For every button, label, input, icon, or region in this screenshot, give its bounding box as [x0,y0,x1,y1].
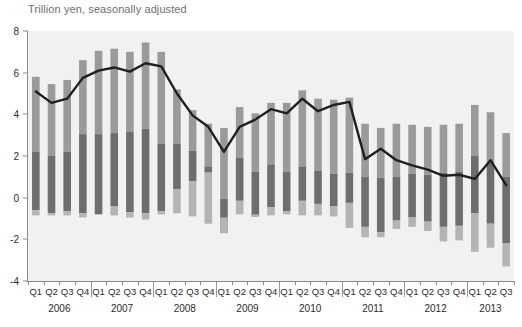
year-separator [216,284,217,297]
bar-segment-middle [63,152,71,211]
bar-segment-lower [157,211,165,214]
bar-segment-middle [32,152,40,210]
bar-segment-lower [204,173,212,224]
bar-segment-lower [79,213,87,217]
bar-segment-middle [126,132,134,212]
bar-segment-lower [455,226,463,241]
bar-segment-upper [220,128,228,199]
bar-segment-lower [377,232,385,237]
quarter-label: Q4 [139,286,152,297]
quarter-label: Q1 [280,286,293,297]
year-label: 2011 [362,303,384,314]
x-tick-mark [295,281,296,285]
x-tick-mark [357,281,358,285]
quarter-label: Q1 [92,286,105,297]
bar-segment-lower [314,204,322,215]
bar-segment-middle [455,172,463,226]
year-label: 2008 [174,303,196,314]
bar-segment-middle [48,156,56,213]
year-label: 2012 [424,303,446,314]
bar-segment-upper [110,49,118,133]
bar-segment-middle [424,175,432,222]
bar-segment-upper [79,60,87,134]
year-label: 2006 [48,303,70,314]
bar-segment-middle [502,177,510,244]
x-tick-mark [310,281,311,285]
x-tick-mark [122,281,123,285]
x-tick-mark [44,281,45,285]
x-tick-mark [326,281,327,285]
bar-segment-upper [126,52,134,132]
quarter-label: Q2 [296,286,309,297]
year-separator [342,284,343,297]
quarter-label: Q2 [484,286,497,297]
year-separator [279,284,280,297]
bar-segment-lower [424,222,432,231]
bar-segment-middle [408,174,416,218]
bar-segment-middle [95,134,103,214]
year-label: 2007 [111,303,133,314]
quarter-label: Q2 [421,286,434,297]
quarter-label: Q4 [265,286,278,297]
bar-segment-middle [204,166,212,172]
x-tick-mark [420,281,421,285]
y-tick-label: 8 [13,26,19,37]
bar-segment-upper [32,77,40,152]
bar-segment-lower [32,210,40,215]
x-tick-mark [436,281,437,285]
year-label: 2009 [236,303,258,314]
plot-area [28,31,514,281]
bar-segment-middle [173,144,181,190]
bar-segment-middle [283,172,291,212]
quarter-label: Q2 [108,286,121,297]
bar-segment-middle [377,178,385,232]
chart-container: Trillion yen, seasonally adjusted -4-202… [0,0,522,327]
bar-segment-middle [487,162,495,223]
x-tick-mark [483,281,484,285]
year-label: 2010 [299,303,321,314]
bar-segment-lower [408,217,416,226]
x-tick-mark [389,281,390,285]
bar-segment-upper [142,42,150,128]
bar-segment-lower [330,206,338,216]
year-label: 2013 [479,303,501,314]
bar-segment-middle [440,173,448,227]
x-tick-mark [451,281,452,285]
bar-segment-middle [393,177,401,221]
x-tick-mark [138,281,139,285]
x-tick-mark [185,281,186,285]
x-tick-mark [373,281,374,285]
bar-segment-upper [377,128,385,178]
bar-segment-lower [189,181,197,216]
bar-segment-middle [330,174,338,206]
bar-segment-lower [142,213,150,219]
bar-segment-middle [314,171,322,204]
bar-segment-middle [189,151,197,181]
quarter-label: Q3 [500,286,513,297]
quarter-label: Q1 [218,286,231,297]
quarter-label: Q3 [374,286,387,297]
year-separator [153,284,154,297]
y-tick-label: 0 [13,192,19,203]
bar-segment-upper [63,80,71,152]
year-separator [467,284,468,297]
x-tick-mark [232,281,233,285]
bar-segment-lower [393,221,401,229]
bar-segment-upper [393,124,401,177]
plot-svg [28,31,514,281]
bar-segment-upper [48,84,56,156]
bar-segment-lower [361,227,369,237]
quarter-label: Q3 [249,286,262,297]
bar-segment-upper [502,133,510,177]
quarter-label: Q3 [437,286,450,297]
bar-segment-lower [220,217,228,233]
bar-segment-lower [502,244,510,267]
bar-segment-lower [471,213,479,252]
bar-segment-upper [95,51,103,134]
year-separator [91,284,92,297]
bar-segment-lower [346,203,354,228]
bar-segment-middle [346,173,354,203]
bar-segment-upper [471,105,479,156]
bar-segment-upper [424,127,432,175]
bar-segment-middle [236,158,244,201]
